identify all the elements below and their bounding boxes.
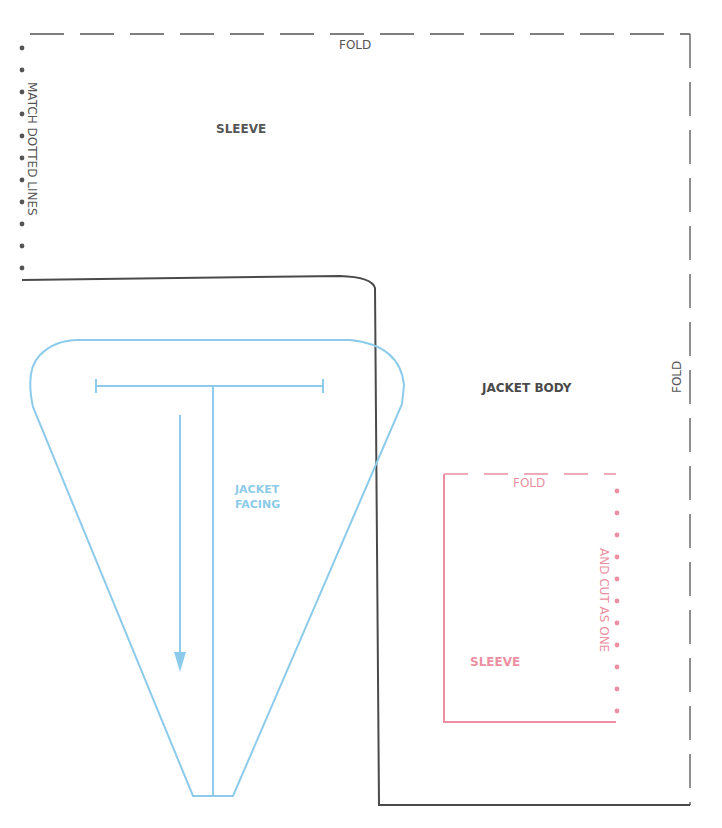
jacket-facing-label-line1: JACKET (234, 483, 280, 496)
match-dot (615, 555, 620, 560)
jacket-facing-label-line2: FACING (235, 498, 280, 511)
jacket-body-outline (22, 276, 690, 805)
match-dot (615, 621, 620, 626)
match-dot (615, 643, 620, 648)
inner-sleeve-label: SLEEVE (470, 655, 520, 669)
match-dot (20, 156, 25, 161)
match-dot (20, 112, 25, 117)
match-dot (20, 90, 25, 95)
match-dot (615, 599, 620, 604)
match-dot (20, 266, 25, 271)
match-dot (615, 577, 620, 582)
match-dot (615, 511, 620, 516)
inner-sleeve-outline (444, 474, 616, 722)
sleeve-top-label: SLEEVE (216, 122, 266, 136)
match-dot (20, 134, 25, 139)
sleeve-top-fold-label: FOLD (339, 38, 371, 52)
pattern-layout: FOLD SLEEVE MATCH DOTTED LINES JACKET BO… (0, 0, 722, 828)
match-dot (20, 244, 25, 249)
match-dot (20, 68, 25, 73)
grain-arrow-head-icon (174, 652, 186, 672)
match-dot (20, 46, 25, 51)
inner-sleeve-fold-label: FOLD (513, 476, 545, 490)
match-dot (20, 178, 25, 183)
match-dot (615, 665, 620, 670)
match-dot (615, 687, 620, 692)
jacket-body-fold-label: FOLD (670, 361, 684, 393)
match-dotted-lines-label: MATCH DOTTED LINES (25, 82, 39, 216)
jacket-body-label: JACKET BODY (481, 381, 572, 395)
match-dot (615, 533, 620, 538)
jacket-facing-outline (30, 340, 404, 796)
match-dots-left (20, 46, 25, 271)
match-dots-right (615, 489, 620, 714)
and-cut-as-one-label: AND CUT AS ONE (597, 548, 611, 652)
match-dot (615, 489, 620, 494)
match-dot (615, 709, 620, 714)
match-dot (20, 200, 25, 205)
match-dot (20, 222, 25, 227)
